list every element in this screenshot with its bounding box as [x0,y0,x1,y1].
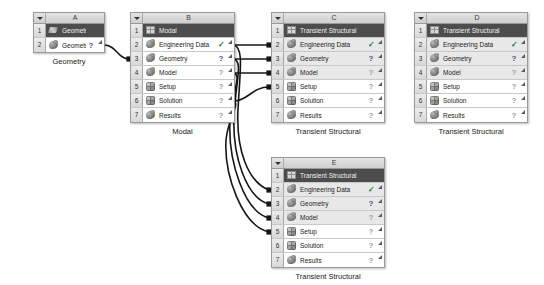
cell-body[interactable]: Model? [143,66,234,79]
cell-body[interactable]: Geometry? [284,52,384,65]
system-cell-row[interactable]: 5Setup? [415,80,527,94]
system-cell-row[interactable]: 7Results? [272,253,384,267]
cell-body[interactable]: Transient Structural [427,24,527,37]
system-cell-row[interactable]: 7Results? [131,108,234,122]
cell-body[interactable]: Engineering Data✓ [284,38,384,51]
link-b4-e4[interactable] [230,73,269,218]
system-cell-row[interactable]: 4Model? [131,66,234,80]
cell-body[interactable]: Geometry [46,24,104,37]
cell-label: Solution [300,96,366,105]
cell-body[interactable]: Transient Structural [284,169,384,182]
cell-body[interactable]: Engineering Data✓ [427,38,527,51]
link-b2-e2[interactable] [234,45,269,190]
system-cell-row[interactable]: 6Solution? [415,94,527,108]
cell-body[interactable]: Results? [143,108,234,122]
transient-structural-system-icon [286,170,297,181]
cell-body[interactable]: Results? [427,108,527,122]
cell-body[interactable]: Geometry? [143,52,234,65]
system-header[interactable]: C [272,13,384,24]
system-box[interactable]: D1Transient Structural2Engineering Data✓… [414,12,528,123]
cell-label: Setup [300,227,366,236]
cell-body[interactable]: Solution? [284,94,384,107]
system-box[interactable]: E1Transient Structural2Engineering Data✓… [271,157,385,268]
cell-body[interactable]: Setup? [284,80,384,93]
cell-body[interactable]: Setup? [143,80,234,93]
row-number: 2 [272,183,284,196]
system-cell-row[interactable]: 1Transient Structural [272,169,384,183]
cell-body[interactable]: Results? [284,108,384,122]
system-dropdown-button[interactable] [415,13,427,23]
cell-body[interactable]: Geometry? [284,197,384,210]
system-dropdown-button[interactable] [272,158,284,168]
system-cell-row[interactable]: 2Engineering Data✓ [415,38,527,52]
system-box[interactable]: C1Transient Structural2Engineering Data✓… [271,12,385,123]
cell-body[interactable]: Engineering Data✓ [284,183,384,196]
system-block-a[interactable]: A1Geometry2Geometry?Geometry [33,12,105,67]
link-b6-c5[interactable] [234,87,269,101]
system-dropdown-button[interactable] [272,13,284,23]
system-cell-row[interactable]: 1Modal [131,24,234,38]
system-cell-row[interactable]: 3Geometry? [415,52,527,66]
system-header[interactable]: D [415,13,527,24]
cell-body[interactable]: Solution? [284,239,384,252]
cell-body[interactable]: Engineering Data✓ [143,38,234,51]
row-number: 2 [131,38,143,51]
system-cell-row[interactable]: 6Solution? [272,94,384,108]
system-caption: Modal [130,126,235,137]
system-cell-row[interactable]: 7Results? [272,108,384,122]
system-dropdown-button[interactable] [34,13,46,23]
system-dropdown-button[interactable] [131,13,143,23]
status-question-dim-icon: ? [509,82,519,91]
system-header[interactable]: E [272,158,384,169]
cell-body[interactable]: Model? [284,211,384,224]
system-cell-row[interactable]: 4Model? [272,211,384,225]
cell-body[interactable]: Model? [427,66,527,79]
cell-label: Transient Structural [300,171,366,180]
system-cell-row[interactable]: 5Setup? [272,80,384,94]
system-cell-row[interactable]: 7Results? [415,108,527,122]
system-header[interactable]: A [34,13,104,24]
system-letter: D [427,13,527,23]
status-question-dim-icon: ? [366,111,376,120]
system-header[interactable]: B [131,13,234,24]
engineering-data-icon [145,39,156,50]
system-cell-row[interactable]: 2Engineering Data✓ [272,183,384,197]
system-cell-row[interactable]: 5Setup? [272,225,384,239]
system-block-e[interactable]: E1Transient Structural2Engineering Data✓… [271,157,385,282]
system-cell-row[interactable]: 3Geometry? [272,52,384,66]
system-cell-row[interactable]: 2Engineering Data✓ [131,38,234,52]
cell-body[interactable]: Transient Structural [284,24,384,37]
cell-body[interactable]: Setup? [284,225,384,238]
project-schematic-canvas[interactable]: A1Geometry2Geometry?GeometryB1Modal2Engi… [0,0,544,285]
link-b3-e3[interactable] [234,59,269,204]
system-box[interactable]: B1Modal2Engineering Data✓3Geometry?4Mode… [130,12,235,123]
system-cell-row[interactable]: 6Solution? [272,239,384,253]
cell-label: Geometry [62,26,86,35]
system-cell-row[interactable]: 1Transient Structural [415,24,527,38]
system-cell-row[interactable]: 2Engineering Data✓ [272,38,384,52]
system-block-c[interactable]: C1Transient Structural2Engineering Data✓… [271,12,385,137]
link-a2-b3[interactable] [104,45,129,59]
system-block-b[interactable]: B1Modal2Engineering Data✓3Geometry?4Mode… [130,12,235,137]
geometry-icon [48,40,59,51]
cell-body[interactable]: Modal [143,24,234,37]
system-box[interactable]: A1Geometry2Geometry? [33,12,105,53]
cell-body[interactable]: Geometry? [46,38,104,52]
system-cell-row[interactable]: 5Setup? [131,80,234,94]
cell-body[interactable]: Solution? [143,94,234,107]
cell-body[interactable]: Geometry? [427,52,527,65]
cell-body[interactable]: Results? [284,253,384,267]
system-cell-row[interactable]: 3Geometry? [131,52,234,66]
cell-body[interactable]: Solution? [427,94,527,107]
system-cell-row[interactable]: 2Geometry? [34,38,104,52]
system-cell-row[interactable]: 1Transient Structural [272,24,384,38]
system-cell-row[interactable]: 6Solution? [131,94,234,108]
system-cell-row[interactable]: 4Model? [272,66,384,80]
system-cell-row[interactable]: 3Geometry? [272,197,384,211]
system-cell-row[interactable]: 1Geometry [34,24,104,38]
cell-body[interactable]: Setup? [427,80,527,93]
system-block-d[interactable]: D1Transient Structural2Engineering Data✓… [414,12,528,137]
system-cell-row[interactable]: 4Model? [415,66,527,80]
cell-body[interactable]: Model? [284,66,384,79]
row-number: 1 [272,24,284,37]
